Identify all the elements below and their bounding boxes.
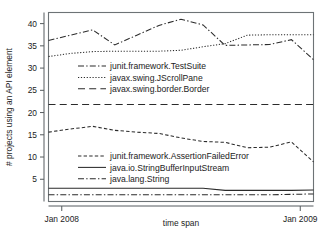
x-axis-title: time span: [163, 218, 200, 228]
y-axis-title: # projects using an API element: [4, 47, 14, 165]
series-line: [49, 19, 314, 59]
y-tick-label: 20: [28, 108, 38, 118]
legend-label: java.io.StringBufferInputStream: [109, 163, 229, 173]
y-tick-label: 35: [28, 41, 38, 51]
chart-legend: junit.framework.TestSuitejavax.swing.JSc…: [78, 61, 249, 184]
x-tick-label: Jan 2008: [45, 214, 80, 224]
y-tick-label: 30: [28, 63, 38, 73]
legend-label: javax.swing.border.Border: [109, 84, 209, 94]
series-line: [49, 194, 314, 195]
legend-label: junit.framework.TestSuite: [109, 61, 206, 71]
legend-label: junit.framework.AssertionFailedError: [109, 151, 249, 161]
line-chart: 510152025303540 Jan 2008Jan 2009 junit.f…: [0, 0, 328, 234]
chart-container: 510152025303540 Jan 2008Jan 2009 junit.f…: [0, 0, 328, 234]
x-tick-label: Jan 2009: [283, 214, 318, 224]
series-line: [49, 188, 314, 190]
y-tick-label: 15: [28, 130, 38, 140]
plot-frame: [49, 13, 314, 202]
series-line: [49, 35, 314, 57]
y-axis-ticks: 510152025303540: [28, 19, 44, 185]
legend-label: java.lang.String: [109, 174, 169, 184]
y-tick-label: 10: [28, 152, 38, 162]
y-tick-label: 25: [28, 85, 38, 95]
legend-label: javax.swing.JScrollPane: [109, 73, 203, 83]
y-tick-label: 40: [28, 19, 38, 29]
y-tick-label: 5: [32, 174, 37, 184]
